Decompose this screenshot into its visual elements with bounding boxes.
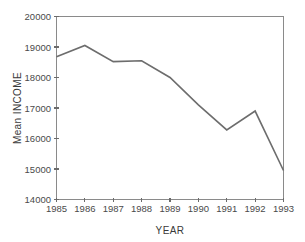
x-tick-label-1987: 1987 [103,203,124,214]
axis-frame [57,17,284,200]
x-tick-label-1989: 1989 [159,203,180,214]
y-tick-label-19000: 19000 [25,42,51,53]
line-chart: 20000 19000 18000 17000 16000 15000 1400… [0,0,305,242]
x-tick-label-1988: 1988 [131,203,152,214]
x-tick-label-1986: 1986 [74,203,95,214]
y-tick-labels: 20000 19000 18000 17000 16000 15000 1400… [25,11,51,205]
x-tick-labels: 1985 1986 1987 1988 1989 1990 1991 1992 … [46,203,294,214]
y-tick-label-16000: 16000 [25,133,51,144]
income-series-line [57,45,284,170]
x-tick-label-1990: 1990 [188,203,209,214]
y-tick-label-17000: 17000 [25,103,51,114]
x-tick-label-1993: 1993 [273,203,294,214]
y-tick-label-15000: 15000 [25,164,51,175]
x-axis-title: YEAR [156,225,185,236]
x-tick-label-1985: 1985 [46,203,67,214]
chart-canvas: 20000 19000 18000 17000 16000 15000 1400… [0,0,305,242]
y-axis-title: Mean INCOME [12,72,23,144]
x-tick-label-1991: 1991 [216,203,237,214]
x-tick-label-1992: 1992 [245,203,266,214]
y-tick-label-20000: 20000 [25,11,51,22]
y-tick-label-18000: 18000 [25,72,51,83]
